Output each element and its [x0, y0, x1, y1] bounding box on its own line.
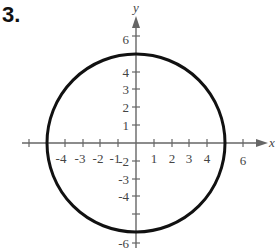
svg-text:1: 1	[123, 118, 130, 133]
svg-text:2: 2	[169, 151, 176, 166]
y-axis-label: y	[131, 0, 139, 15]
x-tick-labels: -4 -3 -2 -1 1 2 3 4 6	[56, 151, 247, 168]
svg-text:-3: -3	[118, 172, 129, 187]
coordinate-plane: -4 -3 -2 -1 1 2 3 4 6 6 4 3 2 1 -2 -3 -4…	[0, 0, 277, 250]
svg-text:3: 3	[186, 151, 193, 166]
svg-text:-3: -3	[75, 151, 86, 166]
svg-text:3: 3	[123, 82, 130, 97]
svg-text:4: 4	[123, 65, 130, 80]
svg-text:6: 6	[123, 32, 130, 47]
svg-text:1: 1	[151, 151, 158, 166]
y-axis-arrow-icon	[132, 16, 140, 28]
svg-text:6: 6	[240, 153, 247, 168]
svg-text:-2: -2	[93, 151, 104, 166]
svg-text:-6: -6	[118, 236, 129, 250]
x-axis-arrow-icon	[256, 139, 268, 147]
svg-text:-2: -2	[118, 154, 129, 169]
svg-text:2: 2	[123, 100, 130, 115]
svg-text:-4: -4	[118, 189, 129, 204]
svg-text:4: 4	[204, 151, 211, 166]
x-axis-label: x	[268, 135, 275, 150]
y-tick-labels: 6 4 3 2 1 -2 -3 -4 -6	[118, 32, 129, 250]
svg-text:-4: -4	[56, 151, 67, 166]
